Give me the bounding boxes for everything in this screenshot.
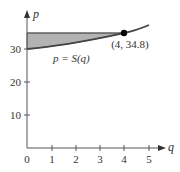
y-tick-label-30: 30 [10,43,22,55]
x-axis-label: q [168,140,174,154]
x-tick-label-1: 1 [49,153,55,165]
y-tick-label-20: 20 [10,76,22,88]
producer-surplus-chart: 30 20 10 0 1 2 3 4 5 p q p = S(q) (4, 34… [0,0,180,172]
y-axis-arrow-icon [24,10,30,18]
x-tick-label-5: 5 [146,153,152,165]
x-tick-label-2: 2 [73,153,79,165]
x-axis-arrow-icon [158,145,166,151]
x-tick-label-3: 3 [97,153,103,165]
y-tick-label-10: 10 [10,109,22,121]
x-tick-label-0: 0 [24,153,30,165]
x-tick-label-4: 4 [121,153,127,165]
point-label: (4, 34.8) [111,38,149,51]
curve-label: p = S(q) [52,52,90,65]
equilibrium-point [121,30,127,36]
y-axis-label: p [32,7,39,21]
